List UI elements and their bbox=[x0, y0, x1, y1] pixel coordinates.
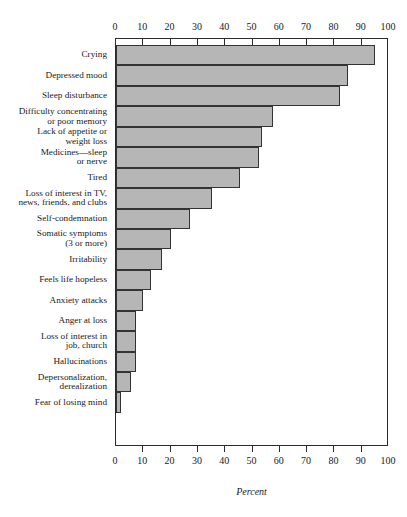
tick-bottom-70 bbox=[306, 446, 307, 452]
bar bbox=[116, 168, 240, 188]
bar-row bbox=[116, 168, 388, 188]
bar bbox=[116, 209, 190, 229]
tick-label-top-60: 60 bbox=[264, 22, 294, 32]
bar bbox=[116, 249, 162, 269]
tick-label-top-10: 10 bbox=[127, 22, 157, 32]
tick-label-top-40: 40 bbox=[209, 22, 239, 32]
category-label: Anger at loss bbox=[0, 316, 110, 326]
x-axis-title: Percent bbox=[115, 486, 388, 497]
bar bbox=[116, 270, 151, 290]
bar bbox=[116, 45, 375, 65]
tick-label-bottom-80: 80 bbox=[318, 456, 348, 466]
category-label: Depressed mood bbox=[0, 71, 110, 81]
bar-row bbox=[116, 392, 388, 412]
category-label: Hallucinations bbox=[0, 357, 110, 367]
tick-bottom-40 bbox=[224, 446, 225, 452]
bar bbox=[116, 290, 143, 310]
category-label: Fear of losing mind bbox=[0, 398, 110, 408]
tick-label-bottom-20: 20 bbox=[155, 456, 185, 466]
tick-bottom-10 bbox=[142, 446, 143, 452]
tick-label-bottom-70: 70 bbox=[291, 456, 321, 466]
bar-row bbox=[116, 290, 388, 310]
bar bbox=[116, 372, 131, 392]
bar-row bbox=[116, 331, 388, 351]
bar bbox=[116, 86, 340, 106]
category-label: Crying bbox=[0, 50, 110, 60]
tick-bottom-90 bbox=[361, 446, 362, 452]
bar bbox=[116, 392, 121, 412]
bars-container bbox=[116, 45, 388, 413]
bar bbox=[116, 331, 136, 351]
bar-row bbox=[116, 45, 388, 65]
tick-top-80 bbox=[333, 38, 334, 45]
bar-row bbox=[116, 352, 388, 372]
tick-top-60 bbox=[279, 38, 280, 45]
tick-top-90 bbox=[361, 38, 362, 45]
bar-chart: 0010102020303040405050606070708080909010… bbox=[0, 0, 407, 517]
bar-row bbox=[116, 147, 388, 167]
category-label: Depersonalization, derealization bbox=[0, 373, 110, 393]
bar bbox=[116, 127, 262, 147]
tick-label-bottom-100: 100 bbox=[373, 456, 403, 466]
category-label: Somatic symptoms (3 or more) bbox=[0, 229, 110, 249]
bar-row bbox=[116, 188, 388, 208]
category-label: Tired bbox=[0, 173, 110, 183]
tick-label-bottom-30: 30 bbox=[182, 456, 212, 466]
tick-top-30 bbox=[197, 38, 198, 45]
tick-label-top-100: 100 bbox=[373, 22, 403, 32]
tick-label-bottom-0: 0 bbox=[100, 456, 130, 466]
tick-label-bottom-10: 10 bbox=[127, 456, 157, 466]
bar-row bbox=[116, 372, 388, 392]
tick-label-top-70: 70 bbox=[291, 22, 321, 32]
category-label: Difficulty concentrating or poor memory bbox=[0, 107, 110, 127]
tick-label-top-30: 30 bbox=[182, 22, 212, 32]
bar bbox=[116, 188, 212, 208]
tick-label-top-50: 50 bbox=[237, 22, 267, 32]
category-label: Feels life hopeless bbox=[0, 275, 110, 285]
bar bbox=[116, 352, 136, 372]
tick-label-top-80: 80 bbox=[318, 22, 348, 32]
bar-row bbox=[116, 249, 388, 269]
tick-top-20 bbox=[170, 38, 171, 45]
tick-label-bottom-90: 90 bbox=[346, 456, 376, 466]
tick-top-40 bbox=[224, 38, 225, 45]
tick-bottom-50 bbox=[252, 446, 253, 452]
category-labels: CryingDepressed moodSleep disturbanceDif… bbox=[0, 45, 110, 413]
category-label: Anxiety attacks bbox=[0, 296, 110, 306]
bar bbox=[116, 147, 259, 167]
category-label: Loss of interest in TV, news, friends, a… bbox=[0, 189, 110, 209]
category-label: Sleep disturbance bbox=[0, 91, 110, 101]
bar bbox=[116, 65, 348, 85]
category-label: Irritability bbox=[0, 255, 110, 265]
bar-row bbox=[116, 106, 388, 126]
tick-label-bottom-60: 60 bbox=[264, 456, 294, 466]
tick-bottom-80 bbox=[333, 446, 334, 452]
tick-label-top-20: 20 bbox=[155, 22, 185, 32]
bar-row bbox=[116, 229, 388, 249]
category-label: Self-condemnation bbox=[0, 214, 110, 224]
category-label: Loss of interest in job, church bbox=[0, 332, 110, 352]
tick-label-top-0: 0 bbox=[100, 22, 130, 32]
bar-row bbox=[116, 209, 388, 229]
bar-row bbox=[116, 65, 388, 85]
tick-top-50 bbox=[252, 38, 253, 45]
bar-row bbox=[116, 86, 388, 106]
bar-row bbox=[116, 311, 388, 331]
tick-label-bottom-40: 40 bbox=[209, 456, 239, 466]
tick-top-10 bbox=[142, 38, 143, 45]
category-label: Medicines—sleep or nerve bbox=[0, 148, 110, 168]
tick-bottom-20 bbox=[170, 446, 171, 452]
bar bbox=[116, 229, 171, 249]
tick-label-bottom-50: 50 bbox=[237, 456, 267, 466]
category-label: Lack of appetite or weight loss bbox=[0, 127, 110, 147]
tick-bottom-30 bbox=[197, 446, 198, 452]
bar bbox=[116, 311, 136, 331]
tick-label-top-90: 90 bbox=[346, 22, 376, 32]
bar-row bbox=[116, 127, 388, 147]
bar bbox=[116, 106, 273, 126]
tick-top-70 bbox=[306, 38, 307, 45]
bar-row bbox=[116, 270, 388, 290]
tick-bottom-60 bbox=[279, 446, 280, 452]
